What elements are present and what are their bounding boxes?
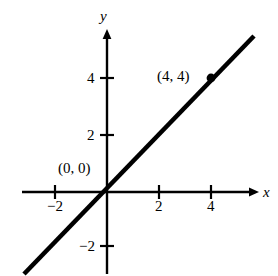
origin-point-label: (0, 0) (58, 161, 91, 176)
x-tick-label-2: 2 (155, 199, 163, 214)
x-axis-label: x (263, 185, 270, 200)
graph-figure: −2 2 4 4 2 −2 x y (0, 0) (4, 4) (0, 0, 278, 276)
coordinate-plane-svg (0, 0, 278, 276)
y-axis-label: y (100, 9, 107, 24)
point-4-4-label: (4, 4) (157, 69, 190, 84)
data-point-4-4 (207, 74, 216, 83)
y-tick-label-2: 2 (87, 128, 95, 143)
y-axis-arrow-icon (103, 29, 112, 39)
x-tick-label-4: 4 (207, 199, 215, 214)
x-tick-label--2: −2 (47, 199, 63, 214)
x-axis-arrow-icon (249, 188, 259, 197)
line-y-equals-x (24, 36, 254, 274)
y-tick-label--2: −2 (79, 239, 95, 254)
y-tick-label-4: 4 (87, 71, 95, 86)
